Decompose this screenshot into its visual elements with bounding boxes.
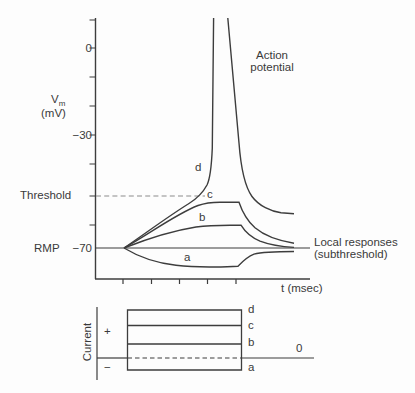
ytick-label-0: 0 [66, 42, 92, 54]
curve-label-d: d [195, 161, 201, 173]
membrane-potential-figure: Vm (mV) 0 −30 −70 Threshold RMP Action p… [0, 0, 415, 393]
pulse-label-b: b [248, 336, 254, 348]
current-minus-sign: − [104, 361, 111, 373]
action-potential-line2: potential [240, 61, 304, 73]
action-potential-line1: Action [240, 49, 304, 61]
current-zero-label: 0 [296, 342, 302, 354]
ytick-label-minus30: −30 [58, 129, 92, 141]
pulse-label-d: d [248, 303, 254, 315]
ytick-label-minus70: −70 [58, 242, 92, 254]
rmp-label: RMP [34, 242, 60, 254]
time-axis-label: t (msec) [281, 282, 323, 294]
current-pulse-box [128, 310, 242, 370]
curve-label-a: a [184, 251, 190, 263]
time-x-axis-ticks [123, 279, 236, 284]
threshold-label: Threshold [20, 189, 71, 201]
curve-label-b: b [199, 211, 205, 223]
pulse-label-a: a [248, 361, 254, 373]
current-plus-sign: + [104, 325, 111, 337]
curve-a [124, 248, 294, 267]
local-responses-line1: Local responses [314, 236, 398, 248]
local-responses-label: Local responses (subthreshold) [314, 236, 398, 260]
current-axis-label: Current [81, 312, 93, 372]
pulse-label-c: c [248, 319, 254, 331]
vm-axis-label-base: V [51, 93, 59, 105]
action-potential-downstroke [228, 18, 294, 214]
local-responses-line2: (subthreshold) [314, 248, 398, 260]
action-potential-label: Action potential [240, 49, 304, 73]
curve-label-c: c [207, 188, 213, 200]
vm-axis-unit: (mV) [41, 107, 66, 119]
